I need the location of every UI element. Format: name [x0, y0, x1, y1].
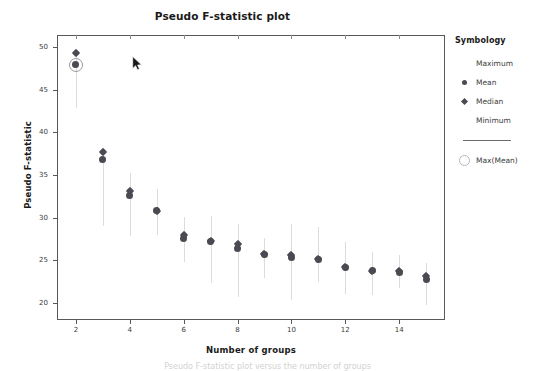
y-tick-label: 50 — [26, 43, 48, 51]
mean-marker — [369, 267, 376, 274]
x-tick-mark — [76, 320, 77, 324]
y-tick-label: 45 — [26, 86, 48, 94]
legend-item[interactable]: Maximum — [455, 54, 535, 73]
legend-item[interactable]: Minimum — [455, 111, 535, 130]
y-tick-label: 40 — [26, 128, 48, 136]
y-tick-label: 30 — [26, 214, 48, 222]
y-tick-mark — [53, 132, 57, 133]
x-tick-mark-top — [238, 35, 239, 39]
y-tick-mark — [53, 303, 57, 304]
legend-title: Symbology — [455, 36, 535, 45]
legend-separator — [463, 140, 511, 141]
whisker-range — [264, 238, 265, 278]
legend-item-label: Max(Mean) — [476, 151, 518, 170]
legend-ring-icon — [459, 151, 471, 170]
x-tick-label: 14 — [389, 326, 409, 334]
x-tick-mark-top — [76, 35, 77, 39]
mean-marker — [261, 251, 268, 258]
y-tick-mark — [53, 260, 57, 261]
x-tick-label: 2 — [66, 326, 86, 334]
x-tick-mark — [184, 320, 185, 324]
legend-item[interactable]: Median — [455, 92, 535, 111]
chart-title: Pseudo F-statistic plot — [0, 10, 445, 22]
legend-items: MaximumMeanMedianMinimumMax(Mean) — [455, 54, 535, 170]
plot-area — [57, 35, 445, 320]
x-tick-mark-top — [399, 35, 400, 39]
x-axis-label: Number of groups — [57, 345, 445, 355]
circle-icon — [462, 80, 467, 85]
legend-item-label: Median — [476, 92, 503, 111]
x-tick-mark — [291, 320, 292, 324]
x-tick-label: 4 — [120, 326, 140, 334]
y-tick-mark — [53, 90, 57, 91]
pseudo-f-statistic-chart: Pseudo F-statistic plot Pseudo F-statist… — [0, 0, 535, 371]
x-tick-mark — [238, 320, 239, 324]
legend: Symbology MaximumMeanMedianMinimumMax(Me… — [455, 36, 535, 170]
x-tick-mark-top — [184, 35, 185, 39]
legend-circle-icon — [459, 73, 471, 92]
y-tick-mark — [53, 218, 57, 219]
mean-marker — [315, 256, 322, 263]
x-tick-mark — [130, 320, 131, 324]
mean-marker — [396, 269, 403, 276]
legend-item[interactable]: Max(Mean) — [455, 151, 535, 170]
figure-caption: Pseudo F-statistic plot versus the numbe… — [0, 362, 535, 371]
mean-marker — [207, 238, 214, 245]
x-tick-mark — [345, 320, 346, 324]
y-tick-label: 20 — [26, 299, 48, 307]
x-tick-mark-top — [291, 35, 292, 39]
x-tick-mark-top — [130, 35, 131, 39]
whisker-range — [426, 263, 427, 306]
max-mean-highlight — [69, 58, 83, 72]
x-tick-label: 8 — [228, 326, 248, 334]
y-tick-label: 35 — [26, 171, 48, 179]
y-tick-label: 25 — [26, 256, 48, 264]
whisker-range — [238, 224, 239, 297]
y-tick-mark — [53, 175, 57, 176]
x-tick-label: 10 — [281, 326, 301, 334]
whisker-range — [291, 224, 292, 300]
legend-item-label: Mean — [476, 73, 496, 92]
whisker-range — [130, 173, 131, 235]
ring-icon — [459, 155, 470, 166]
mean-marker — [234, 245, 241, 252]
legend-item[interactable]: Mean — [455, 73, 535, 92]
y-tick-mark — [53, 47, 57, 48]
whisker-range — [211, 216, 212, 283]
legend-blank-icon — [459, 54, 471, 73]
legend-item-label: Maximum — [476, 54, 513, 73]
x-tick-mark-top — [345, 35, 346, 39]
x-tick-label: 12 — [335, 326, 355, 334]
legend-blank-icon — [459, 111, 471, 130]
x-tick-label: 6 — [174, 326, 194, 334]
legend-diamond-icon — [459, 92, 471, 111]
x-tick-mark — [399, 320, 400, 324]
diamond-icon — [460, 97, 467, 104]
legend-item-label: Minimum — [476, 111, 511, 130]
